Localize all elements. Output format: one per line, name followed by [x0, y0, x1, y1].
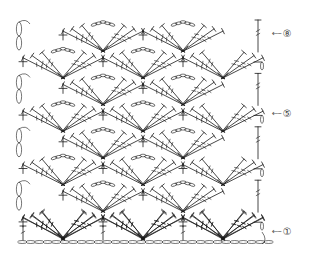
shell-fan-symbol [102, 50, 185, 78]
row-number: ⑧ [283, 28, 292, 39]
shell-fan-symbol [182, 104, 265, 132]
arrow-left-icon: ←– [272, 227, 281, 236]
edge-treble-symbol [255, 180, 261, 212]
shell-fan-symbol [102, 104, 185, 132]
chain-arc-symbol [51, 47, 76, 53]
shell-fan-symbol [142, 24, 225, 52]
double-crochet-symbol [180, 226, 186, 240]
shell-fan-symbol [22, 50, 105, 78]
shell-fan-symbol [182, 50, 265, 78]
crochet-chart [0, 0, 309, 260]
chain-arc-symbol [51, 154, 76, 160]
chain-arc-symbol [91, 128, 116, 134]
chain-arc-symbol [91, 181, 116, 187]
arrow-left-icon: ←– [272, 109, 281, 118]
shell-fan-symbol [62, 184, 145, 212]
edge-treble-symbol [255, 73, 261, 105]
pattern-rows [19, 21, 264, 240]
shell-fan-symbol [142, 130, 225, 158]
shell-fan-symbol [22, 157, 105, 185]
foundation-chain [18, 241, 274, 244]
row-label-5: ←–⑤ [272, 108, 292, 119]
shell-fan-symbol [142, 77, 225, 105]
chain-arc-symbol [131, 101, 156, 107]
shell-fan-symbol [62, 130, 145, 158]
shell-fan-symbol [182, 211, 265, 239]
chain-arc-symbol [91, 74, 116, 80]
chain-arc-symbol [171, 181, 196, 187]
chain-arc-symbol [171, 128, 196, 134]
chain-arc-symbol [91, 21, 116, 27]
shell-fan-symbol [22, 209, 105, 240]
shell-fan-symbol [62, 24, 145, 52]
chain-arc-symbol [51, 101, 76, 107]
shell-fan-symbol [102, 209, 185, 240]
arrow-left-icon: ←– [272, 29, 281, 38]
row-label-8: ←–⑧ [272, 28, 292, 39]
shell-fan-symbol [182, 157, 265, 185]
row-number: ⑤ [283, 108, 292, 119]
double-crochet-symbol [100, 226, 106, 240]
double-crochet-symbol [20, 226, 26, 240]
chain-arc-symbol [171, 21, 196, 27]
chain-arc-symbol [131, 154, 156, 160]
chain-arc-symbol [171, 74, 196, 80]
shell-fan-symbol [22, 104, 105, 132]
shell-fan-symbol [62, 77, 145, 105]
edge-stitches [16, 20, 265, 244]
edge-treble-symbol [255, 20, 261, 52]
row-label-1: ←–① [272, 226, 292, 237]
shell-fan-symbol [102, 211, 185, 239]
shell-fan-symbol [182, 209, 265, 240]
shell-fan-symbol [22, 211, 105, 239]
edge-treble-symbol [255, 127, 261, 159]
shell-fan-symbol [102, 157, 185, 185]
chain-arc-symbol [131, 47, 156, 53]
row-number: ① [283, 226, 292, 237]
shell-fan-symbol [142, 184, 225, 212]
